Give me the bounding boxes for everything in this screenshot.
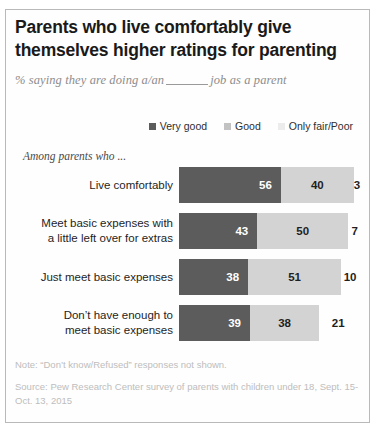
chart-footer: Note: “Don’t know/Refused” responses not… (15, 358, 360, 408)
row-label-line2: a little left over for extras (13, 231, 173, 246)
row-label-line1: Live comfortably (13, 178, 173, 193)
bar-segment-very-good: 39 (179, 305, 250, 341)
group-label: Among parents who ... (23, 150, 126, 162)
legend-item-good: Good (224, 120, 261, 132)
bar-segment-good: 50 (257, 213, 348, 249)
bar-segment-good: 38 (250, 305, 319, 341)
row-label-line1: Don’t have enough to (13, 308, 173, 323)
chart-legend: Very good Good Only fair/Poor (6, 120, 369, 132)
bar-rows: Live comfortably 56 40 3 Meet basic expe… (6, 167, 369, 351)
legend-swatch-icon-only-fair-poor (278, 123, 285, 130)
legend-label-only-fair-poor: Only fair/Poor (289, 120, 353, 132)
table-row: Don’t have enough to meet basic expenses… (6, 305, 369, 341)
stacked-bar: 39 38 21 (179, 305, 357, 341)
bar-value-very-good: 56 (259, 179, 272, 191)
table-row: Just meet basic expenses 38 51 10 (6, 259, 369, 295)
bar-segment-very-good: 56 (179, 167, 281, 203)
table-row: Live comfortably 56 40 3 (6, 167, 369, 203)
legend-label-good: Good (235, 120, 261, 132)
row-label: Meet basic expenses with a little left o… (13, 216, 173, 245)
bar-value-only-fair-poor: 7 (348, 225, 361, 237)
blank-underline (166, 84, 208, 85)
footer-source: Source: Pew Research Center survey of pa… (15, 380, 360, 408)
bar-value-good: 40 (281, 179, 354, 191)
bar-value-good: 50 (257, 225, 348, 237)
legend-swatch-icon-good (224, 123, 231, 130)
chart-subtitle-after: job as a parent (210, 73, 286, 87)
infographic-card: Parents who live comfortably give themse… (5, 9, 370, 423)
bar-value-very-good: 39 (228, 317, 241, 329)
legend-label-very-good: Very good (160, 120, 207, 132)
row-label-line2: meet basic expenses (13, 323, 173, 338)
chart-title: Parents who live comfortably give themse… (15, 16, 365, 63)
legend-item-only-fair-poor: Only fair/Poor (278, 120, 353, 132)
stacked-bar: 56 40 3 (179, 167, 359, 203)
bar-value-only-fair-poor: 3 (354, 179, 359, 191)
legend-swatch-icon-very-good (149, 123, 156, 130)
chart-subtitle-before: % saying they are doing a/an (15, 73, 164, 87)
bar-segment-good: 51 (248, 259, 341, 295)
row-label-line1: Just meet basic expenses (13, 270, 173, 285)
stacked-bar: 38 51 10 (179, 259, 359, 295)
stacked-bar: 43 50 7 (179, 213, 361, 249)
bar-segment-very-good: 38 (179, 259, 248, 295)
bar-value-good: 38 (250, 317, 319, 329)
row-label: Just meet basic expenses (13, 270, 173, 285)
chart-title-line1: Parents who live comfortably give (15, 17, 291, 37)
bar-value-only-fair-poor: 10 (341, 271, 359, 283)
chart-subtitle: % saying they are doing a/anjob as a par… (15, 73, 365, 88)
bar-segment-only-fair-poor: 3 (354, 167, 359, 203)
bar-segment-very-good: 43 (179, 213, 257, 249)
bar-segment-only-fair-poor: 21 (319, 305, 357, 341)
bar-segment-good: 40 (281, 167, 354, 203)
legend-item-very-good: Very good (149, 120, 207, 132)
bar-value-very-good: 43 (235, 225, 248, 237)
footer-note: Note: “Don’t know/Refused” responses not… (15, 358, 360, 372)
table-row: Meet basic expenses with a little left o… (6, 213, 369, 249)
chart-title-line2: themselves higher ratings for parenting (15, 39, 365, 62)
bar-value-good: 51 (248, 271, 341, 283)
row-label: Don’t have enough to meet basic expenses (13, 308, 173, 337)
bar-value-only-fair-poor: 21 (319, 317, 357, 329)
bar-segment-only-fair-poor: 7 (348, 213, 361, 249)
row-label-line1: Meet basic expenses with (13, 216, 173, 231)
row-label: Live comfortably (13, 178, 173, 193)
bar-value-very-good: 38 (226, 271, 239, 283)
bar-segment-only-fair-poor: 10 (341, 259, 359, 295)
